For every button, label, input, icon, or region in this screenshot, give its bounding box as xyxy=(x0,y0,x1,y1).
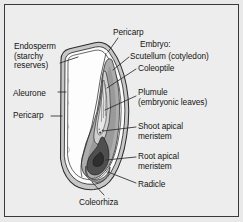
label-shoot-apical-meristem: Shoot apical meristem xyxy=(138,122,183,141)
label-embryo: Embryo: xyxy=(140,40,171,50)
label-scutellum: Scutellum (cotyledon) xyxy=(130,52,209,62)
label-radicle: Radicle xyxy=(138,180,165,190)
label-coleorhiza: Coleorhiza xyxy=(79,198,118,208)
leader-pericarp-top xyxy=(108,38,118,52)
label-plumule: Plumule (embryonic leaves) xyxy=(138,88,207,107)
label-root-apical-meristem: Root apical meristem xyxy=(138,152,179,171)
seed-anatomy-figure: Endosperm (starchy reserves) Aleurone Pe… xyxy=(0,0,243,222)
label-pericarp-top: Pericarp xyxy=(113,28,144,38)
label-aleurone: Aleurone xyxy=(13,89,46,99)
label-endosperm: Endosperm (starchy reserves) xyxy=(14,42,56,71)
label-coleoptile: Coleoptile xyxy=(138,64,174,74)
label-pericarp-left: Pericarp xyxy=(13,111,44,121)
